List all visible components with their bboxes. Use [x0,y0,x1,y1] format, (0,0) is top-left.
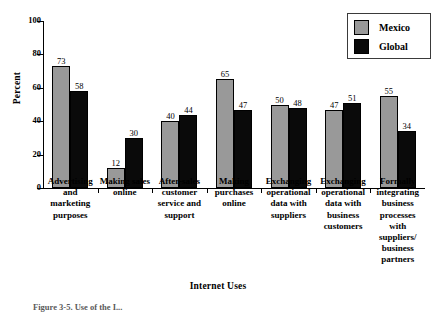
category-label-line: service and [152,198,207,209]
y-tick-label: 0 [37,182,41,192]
legend-swatch-mexico [354,20,369,35]
category-label-2: After-salescustomerservice andsupport [152,176,207,221]
figure-caption: Figure 3-5. Use of the I... [33,302,122,312]
category-label-line: Exchanging [261,176,316,187]
bar-value-label: 40 [166,111,175,121]
bar-value-label: 47 [239,100,248,110]
y-axis-title: Percent [12,48,22,128]
bar-value-label: 44 [184,105,193,115]
bar-mexico-3: 65 [216,79,234,188]
bar-value-label: 34 [402,121,411,131]
bar-value-label: 58 [75,81,84,91]
bar-value-label: 65 [221,69,230,79]
category-label-4: Exchangingoperationaldata withsuppliers [261,176,316,221]
category-label-line: business [370,198,425,209]
category-label-line: Formally [370,176,425,187]
bar-global-0: 58 [70,91,88,188]
y-tick-label: 100 [28,15,41,25]
bar-value-label: 73 [57,56,66,66]
category-label-line: After-sales [152,176,207,187]
bar-value-label: 48 [293,98,302,108]
y-tick-label: 40 [33,115,42,125]
category-label-line: Making sales [98,176,153,187]
legend-label-global: Global [379,41,408,52]
y-tick-label: 60 [33,82,42,92]
category-label-line: and [43,187,98,198]
category-label-line: Making [207,176,262,187]
category-label-line: business [370,243,425,254]
category-label-line: with [370,221,425,232]
category-label-line: online [98,187,153,198]
category-label-line: integrating [370,187,425,198]
category-label-5: Exchangingoperationaldata withbusinesscu… [316,176,371,232]
category-label-line: purchases [207,187,262,198]
legend-item-global: Global [354,38,408,54]
category-label-line: business [316,210,371,221]
category-label-0: Advertisingandmarketingpurposes [43,176,98,221]
y-tick-label: 20 [33,149,42,159]
category-label-line: suppliers/ [370,232,425,243]
category-label-line: customers [316,221,371,232]
category-label-1: Making salesonline [98,176,153,198]
y-tick-label: 80 [33,48,42,58]
y-axis-line [43,21,44,188]
bar-value-label: 30 [130,128,139,138]
chart-legend: Mexico Global [347,13,431,59]
chart-figure: Percent 020406080100 7312406550475558304… [0,0,436,312]
bar-mexico-0: 73 [52,66,70,188]
category-label-line: suppliers [261,210,316,221]
category-label-3: Makingpurchasesonline [207,176,262,210]
legend-label-mexico: Mexico [379,22,410,33]
category-label-line: processes [370,210,425,221]
bar-value-label: 12 [112,158,121,168]
category-label-line: operational [261,187,316,198]
category-label-line: operational [316,187,371,198]
category-label-line: Advertising [43,176,98,187]
legend-swatch-global [354,39,369,54]
category-label-line: support [152,210,207,221]
category-label-line: data with [261,198,316,209]
category-label-line: online [207,198,262,209]
bar-mexico-6: 55 [380,96,398,188]
category-label-line: data with [316,198,371,209]
bar-value-label: 47 [330,100,339,110]
category-label-6: Formallyintegratingbusinessprocesseswith… [370,176,425,266]
category-label-line: partners [370,254,425,265]
bar-value-label: 55 [384,86,393,96]
bar-value-label: 51 [348,93,357,103]
bar-value-label: 50 [275,95,284,105]
legend-item-mexico: Mexico [354,19,410,35]
x-axis-title: Internet Uses [0,281,436,291]
category-label-line: marketing [43,198,98,209]
category-label-line: purposes [43,210,98,221]
category-label-line: customer [152,187,207,198]
category-label-line: Exchanging [316,176,371,187]
